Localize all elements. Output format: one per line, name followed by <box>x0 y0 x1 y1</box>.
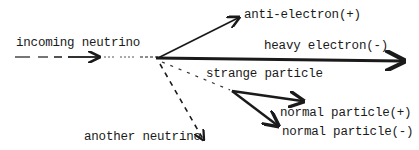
anti-electron-track <box>158 18 238 58</box>
label-anti-electron: anti-electron(+) <box>244 9 361 22</box>
label-strange-particle: strange particle <box>206 68 323 81</box>
label-normal-particle-minus: normal particle(-) <box>282 126 413 139</box>
heavy-electron-track <box>156 58 402 61</box>
label-normal-particle-plus: normal particle(+) <box>280 107 411 120</box>
label-incoming-neutrino: incoming neutrino <box>16 37 140 50</box>
label-heavy-electron: heavy electron(-) <box>264 40 388 53</box>
label-another-neutrino: another neutrino <box>84 131 201 144</box>
another-neutrino-track <box>160 64 203 139</box>
